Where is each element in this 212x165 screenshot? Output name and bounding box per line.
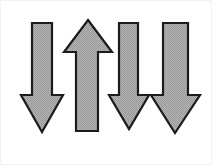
arrow-canvas: [1, 1, 212, 165]
arrow-figure: Four block arrows in a row Arrow 1 Arrow…: [0, 0, 212, 165]
